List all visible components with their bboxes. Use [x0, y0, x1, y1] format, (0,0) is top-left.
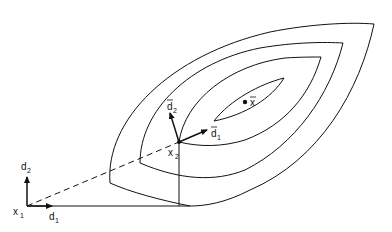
- contour-inner: [214, 78, 284, 121]
- contour-outer: [110, 23, 374, 206]
- contour-diagram: x x 1 d 1 d 2 x 2 d 1 d 2: [0, 0, 392, 232]
- x2-sub: 2: [175, 153, 179, 160]
- d1-sub: 1: [55, 217, 59, 224]
- d1bar-sub: 1: [217, 134, 221, 141]
- optimum-point: [243, 100, 247, 104]
- xbar-label: x: [250, 97, 255, 108]
- d2-label: d: [21, 161, 27, 172]
- d2bar-label: d: [167, 101, 173, 112]
- d2bar-sub: 2: [173, 107, 177, 114]
- d2-sub: 2: [27, 167, 31, 174]
- dashed-path: [27, 142, 179, 206]
- d1bar-arrow: [179, 130, 207, 142]
- d2bar-arrow: [170, 113, 179, 142]
- d1-label: d: [49, 211, 55, 222]
- x2-label: x: [168, 147, 173, 158]
- x1-sub: 1: [20, 212, 24, 219]
- d1bar-label: d: [211, 128, 217, 139]
- x1-label: x: [13, 206, 18, 217]
